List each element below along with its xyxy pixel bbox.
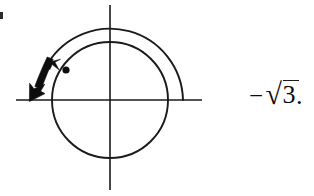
period: . [296,81,303,110]
radical-icon: √ [266,77,283,110]
direction-arrow-shaft [35,57,53,88]
rotation-arc [48,29,183,100]
radicand: 3 [283,80,297,109]
radical-group: √3 [266,72,296,118]
figure-canvas: −√3. [0,0,314,196]
math-expression: −√3. [249,72,314,116]
minus-sign: − [249,82,266,109]
terminal-point-marker [62,66,69,73]
